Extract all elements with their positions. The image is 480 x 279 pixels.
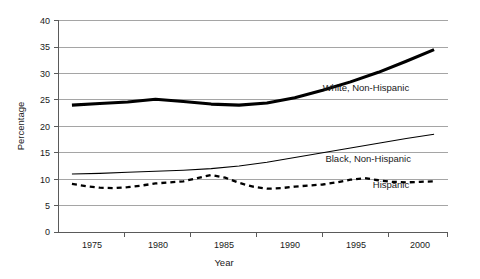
x-tick-label-1980: 1980 <box>148 240 168 250</box>
y-axis <box>54 20 59 233</box>
x-tick-labels: 1975 1980 1985 1990 1995 2000 <box>82 240 430 250</box>
y-tick-label-5: 5 <box>45 201 50 211</box>
x-tick-label-1975: 1975 <box>82 240 102 250</box>
x-axis <box>58 233 448 238</box>
y-tick-label-0: 0 <box>45 227 50 237</box>
series-paths <box>72 50 434 189</box>
gridlines <box>58 21 448 233</box>
line-chart: 40 35 30 25 20 15 10 5 0 1975 1980 1985 … <box>0 0 480 279</box>
series-label-white-non-hispanic: White, Non-Hispanic <box>323 82 410 93</box>
y-tick-label-35: 35 <box>40 42 50 52</box>
x-tick-label-2000: 2000 <box>410 240 430 250</box>
series-label-black-non-hispanic: Black, Non-Hispanic <box>325 153 411 164</box>
x-axis-title: Year <box>214 257 233 268</box>
y-tick-labels: 40 35 30 25 20 15 10 5 0 <box>40 16 50 238</box>
series-label-hispanic: Hispanic <box>373 179 410 190</box>
y-tick-label-10: 10 <box>40 175 50 185</box>
x-tick-label-1995: 1995 <box>346 240 366 250</box>
series-inline-labels: White, Non-Hispanic Black, Non-Hispanic … <box>323 82 412 190</box>
y-tick-label-15: 15 <box>40 148 50 158</box>
series-line-white-non-hispanic <box>72 50 434 106</box>
x-tick-label-1990: 1990 <box>280 240 300 250</box>
y-tick-label-25: 25 <box>40 95 50 105</box>
chart-container: 40 35 30 25 20 15 10 5 0 1975 1980 1985 … <box>0 0 480 279</box>
x-tick-label-1985: 1985 <box>214 240 234 250</box>
y-axis-title: Percentage <box>15 102 26 151</box>
y-tick-label-20: 20 <box>40 122 50 132</box>
y-tick-label-40: 40 <box>40 16 50 26</box>
y-tick-label-30: 30 <box>40 69 50 79</box>
